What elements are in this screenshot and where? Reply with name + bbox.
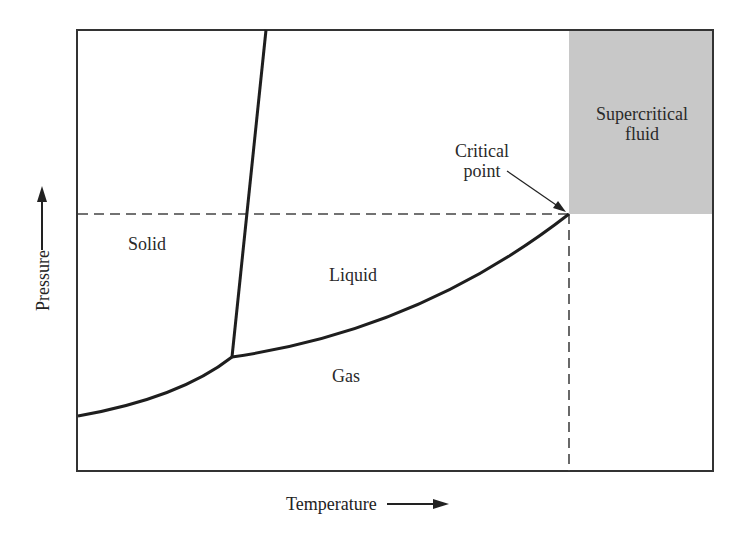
region-label-supercritical: Supercritical fluid [580,104,704,144]
melting-curve [232,30,266,357]
critical-point-label-line1: Critical [434,141,530,161]
sublimation-curve [78,357,232,416]
region-label-gas: Gas [332,366,360,386]
x-axis-label: Temperature [286,494,449,514]
pressure-arrowhead-icon [37,186,47,202]
x-axis-title: Temperature [286,494,377,514]
temperature-arrow-icon [387,497,449,511]
vaporization-curve [232,214,569,357]
supercritical-label-line1: Supercritical [580,104,704,124]
y-axis-label: Pressure [33,250,53,311]
critical-point-label: Critical point [434,141,530,181]
region-label-liquid: Liquid [329,265,377,285]
critical-point-arrowhead-icon [553,201,566,212]
region-label-solid: Solid [128,234,166,254]
critical-point-label-line2: point [434,161,530,181]
supercritical-label-line2: fluid [580,124,704,144]
y-axis-title: Pressure [33,250,53,311]
